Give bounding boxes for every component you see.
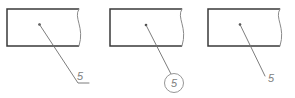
figure-1-part-outline[interactable] xyxy=(7,9,79,46)
figure-1[interactable]: 5 xyxy=(7,9,89,83)
figure-3[interactable]: 5 xyxy=(208,9,282,84)
figure-3-part-outline[interactable] xyxy=(208,9,280,46)
figure-3-item-number-label: 5 xyxy=(268,72,275,84)
figure-2-part-outline[interactable] xyxy=(110,9,182,46)
figure-1-item-number-label: 5 xyxy=(77,70,84,82)
technical-drawing-canvas: 5 5 5 xyxy=(0,0,295,98)
figure-2-item-number-label: 5 xyxy=(171,77,178,89)
figure-2[interactable]: 5 xyxy=(110,9,184,93)
